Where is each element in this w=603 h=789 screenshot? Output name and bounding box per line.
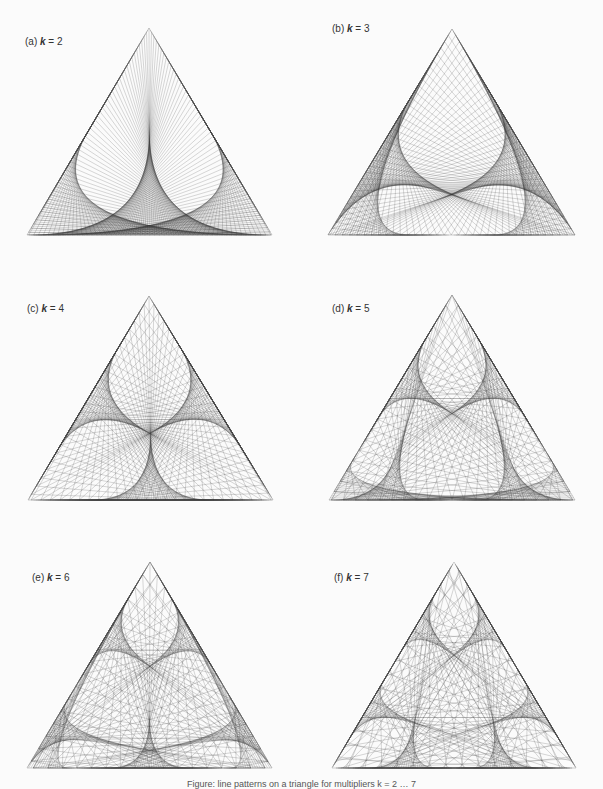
panel-b-k-value: = 3 bbox=[353, 23, 370, 34]
panel-c-letter: (c) bbox=[27, 303, 39, 314]
panel-f-pattern bbox=[332, 562, 576, 768]
panel-e-letter: (e) bbox=[32, 572, 44, 583]
panel-c-pattern bbox=[28, 296, 273, 500]
panel-c-label: (c) k = 4 bbox=[27, 303, 64, 314]
panel-f-label: (f) k = 7 bbox=[334, 572, 369, 583]
panel-b-label: (b) k = 3 bbox=[332, 23, 370, 34]
panel-b-pattern bbox=[328, 29, 575, 235]
panel-b-letter: (b) bbox=[332, 23, 344, 34]
panel-f-letter: (f) bbox=[334, 572, 343, 583]
panel-e-k-value: = 6 bbox=[53, 572, 70, 583]
panel-d-label: (d) k = 5 bbox=[332, 303, 370, 314]
panel-c-k-value: = 4 bbox=[47, 303, 64, 314]
panel-a-k-value: = 2 bbox=[46, 36, 63, 47]
figure-caption: Figure: line patterns on a triangle for … bbox=[0, 779, 603, 789]
panel-d-pattern bbox=[329, 295, 575, 500]
panel-f-k-value: = 7 bbox=[352, 572, 369, 583]
panel-d-k-value: = 5 bbox=[353, 303, 370, 314]
panel-d-letter: (d) bbox=[332, 303, 344, 314]
panel-e-pattern bbox=[27, 562, 272, 768]
panel-e-label: (e) k = 6 bbox=[32, 572, 70, 583]
panel-a-letter: (a) bbox=[25, 36, 37, 47]
panel-a-label: (a) k = 2 bbox=[25, 36, 63, 47]
panel-a-pattern bbox=[27, 28, 272, 235]
